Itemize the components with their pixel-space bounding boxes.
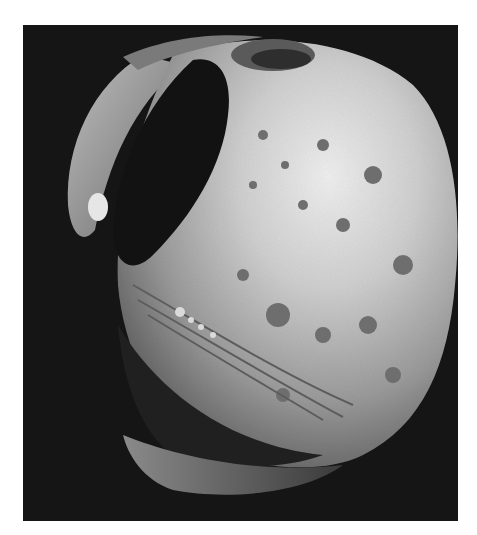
crater-floor	[251, 49, 311, 69]
bright-spot	[88, 193, 108, 221]
phobos-image	[23, 25, 458, 521]
moon-photograph	[23, 25, 458, 521]
